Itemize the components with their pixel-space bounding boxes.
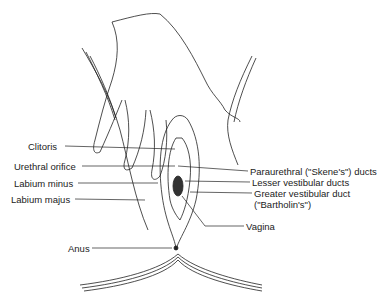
line-drawing bbox=[0, 0, 392, 298]
label-labium-majus: Labium majus bbox=[11, 194, 70, 205]
label-urethral-orifice: Urethral orifice bbox=[14, 161, 76, 172]
label-clitoris: Clitoris bbox=[28, 141, 57, 152]
anatomy-figure: Clitoris Urethral orifice Labium minus L… bbox=[0, 0, 392, 298]
label-paraurethral-ducts: Paraurethral ("Skene's") ducts bbox=[250, 166, 377, 177]
label-lesser-vestibular-ducts: Lesser vestibular ducts bbox=[252, 177, 349, 188]
label-greater-vestibular-duct: Greater vestibular duct bbox=[254, 188, 350, 199]
label-greater-vestibular-duct-eponym: ("Bartholin's") bbox=[254, 199, 311, 210]
label-anus: Anus bbox=[68, 243, 90, 254]
hand-outline bbox=[112, 13, 240, 122]
label-vagina: Vagina bbox=[246, 221, 275, 232]
label-labium-minus: Labium minus bbox=[14, 178, 73, 189]
